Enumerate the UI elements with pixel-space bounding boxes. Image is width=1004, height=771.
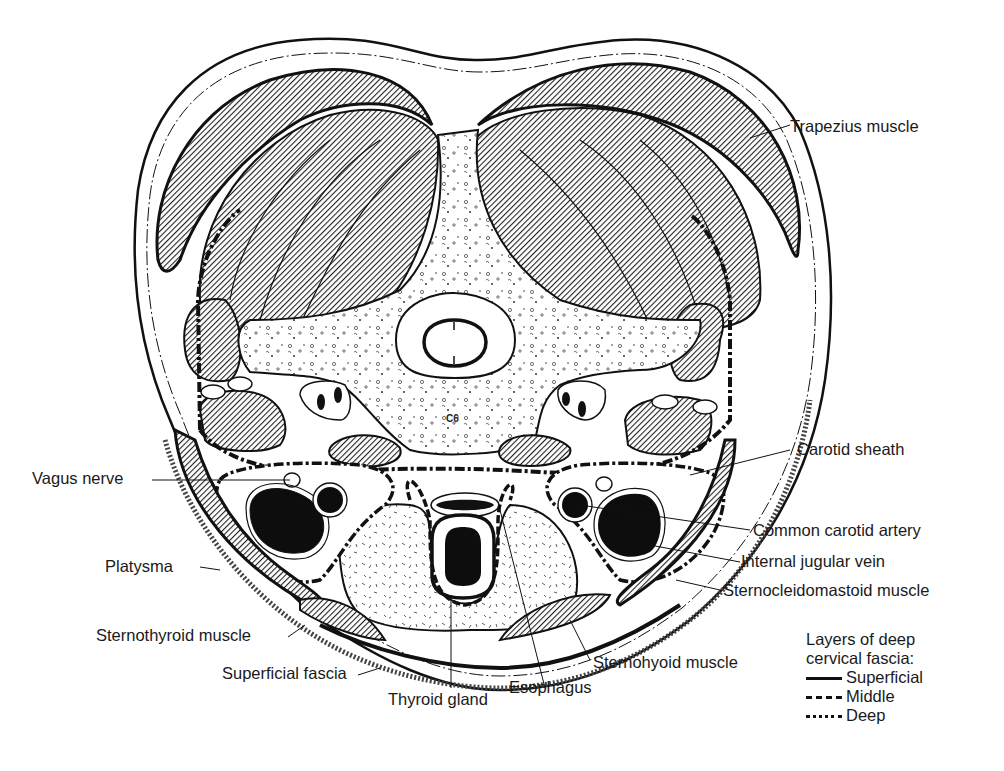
fascia-legend: Layers of deep cervical fascia: Superfic… <box>806 630 923 725</box>
label-carotid-sheath: Carotid sheath <box>797 440 904 458</box>
label-thyroid-gland: Thyroid gland <box>388 690 488 708</box>
trachea <box>432 515 494 598</box>
label-internal-jugular-vein: Internal jugular vein <box>741 552 885 570</box>
solid-line-icon <box>806 677 842 680</box>
vertebra-label: C6 <box>446 413 459 424</box>
legend-title-line1: Layers of deep <box>806 630 923 649</box>
legend-title-line2: cervical fascia: <box>806 649 923 668</box>
legend-item-deep: Deep <box>806 706 923 725</box>
label-sternocleidomastoid-muscle: Sternocleidomastoid muscle <box>723 581 929 599</box>
label-superficial-fascia: Superficial fascia <box>222 664 347 682</box>
label-vagus-nerve: Vagus nerve <box>32 469 123 487</box>
legend-item-middle: Middle <box>806 687 923 706</box>
label-esophagus: Esophagus <box>509 678 592 696</box>
label-sternohyoid-muscle: Sternohyoid muscle <box>593 653 738 671</box>
dash-dot-line-icon <box>806 715 842 718</box>
label-platysma: Platysma <box>105 557 173 575</box>
label-trapezius-muscle: Trapezius muscle <box>790 117 919 135</box>
label-sternothyroid-muscle: Sternothyroid muscle <box>96 626 251 644</box>
legend-item-superficial: Superficial <box>806 668 923 687</box>
label-common-carotid-artery: Common carotid artery <box>753 521 921 539</box>
dashed-line-icon <box>806 696 842 699</box>
